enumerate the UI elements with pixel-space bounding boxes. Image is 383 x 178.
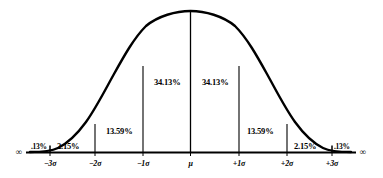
region-label-pos1-to-pos2: 13.59% bbox=[247, 127, 273, 136]
infinity-label-right: ∞ bbox=[360, 148, 366, 157]
region-label-neg2-to-neg1: 13.59% bbox=[106, 127, 132, 136]
region-label-pos2-to-pos3: 2.15% bbox=[294, 142, 316, 151]
region-label-above-pos3sigma: .13% bbox=[334, 143, 350, 151]
region-label-mu-to-pos1: 34.13% bbox=[202, 78, 228, 87]
axis-tick-label-neg2sigma: −2σ bbox=[89, 160, 102, 168]
region-label-neg3-to-neg2: 2.15% bbox=[57, 142, 79, 151]
axis-tick-label-pos1sigma: +1σ bbox=[233, 160, 245, 168]
region-label-neg1-to-mu: 34.13% bbox=[154, 78, 180, 87]
axis-tick-label-pos2sigma: +2σ bbox=[281, 160, 293, 168]
axis-tick-label-mu: μ bbox=[188, 160, 192, 168]
region-label-below-neg3sigma: .13% bbox=[31, 143, 47, 151]
axis-tick-label-neg1sigma: −1σ bbox=[137, 160, 150, 168]
normal-distribution-figure: .13% 2.15% 13.59% 34.13% 34.13% 13.59% 2… bbox=[0, 0, 383, 178]
axis-tick-label-neg3sigma: −3σ bbox=[44, 160, 57, 168]
axis-tick-label-pos3sigma: +3σ bbox=[326, 160, 338, 168]
bell-curve-chart bbox=[0, 0, 383, 178]
infinity-label-left: ∞ bbox=[16, 148, 22, 157]
